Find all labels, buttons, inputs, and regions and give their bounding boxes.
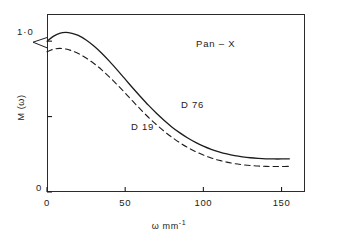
- ytick-label-zero: 0: [36, 183, 42, 193]
- xtick-label-50: 50: [119, 198, 131, 208]
- leader-line-upper: [33, 37, 48, 42]
- xtick-label-100: 100: [195, 198, 213, 208]
- leader-line-lower: [33, 42, 48, 48]
- xtick-label-0: 0: [44, 198, 50, 208]
- x-axis-title-exponent: -1: [179, 219, 186, 226]
- series-label-d19: D 19: [131, 122, 154, 132]
- ytick-label-one: 1·0: [17, 27, 34, 37]
- y-axis-title: M (ω): [17, 78, 26, 138]
- series-label-d76: D 76: [181, 100, 204, 110]
- plot-frame: [47, 14, 305, 192]
- xtick-label-150: 150: [273, 198, 291, 208]
- x-axis-title-text: ω mm: [152, 221, 179, 231]
- figure-container: 1·0 0 050100150 ω mm-1 M (ω) Pan – X D 7…: [0, 0, 338, 243]
- annotation-pan-x: Pan – X: [196, 39, 235, 49]
- x-axis-title: ω mm-1: [152, 222, 186, 231]
- ytick-leader-arrow: [33, 37, 48, 48]
